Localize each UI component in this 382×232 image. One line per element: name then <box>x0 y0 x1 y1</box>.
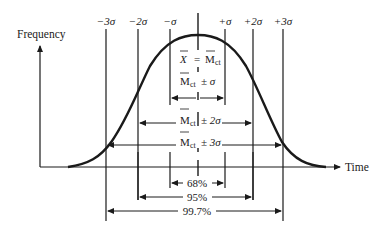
sigma-label-plus-1: +σ <box>219 15 232 27</box>
svg-text:ct: ct <box>190 80 197 89</box>
svg-text:ct: ct <box>215 58 222 67</box>
svg-text:± 2σ: ± 2σ <box>201 114 221 126</box>
sigma-label-minus-2: −2σ <box>129 15 148 27</box>
svg-text:± 3σ: ± 3σ <box>201 136 221 148</box>
sigma-label-minus-1: −σ <box>164 15 177 27</box>
pct-99-7: 99.7% <box>108 205 281 217</box>
sigma-label-plus-3: +3σ <box>274 15 293 27</box>
svg-text:99.7%: 99.7% <box>183 205 211 217</box>
svg-text:95%: 95% <box>187 191 207 203</box>
svg-text:68%: 68% <box>187 177 207 189</box>
svg-text:ct: ct <box>190 119 197 128</box>
svg-text:M: M <box>180 114 190 126</box>
svg-text:± σ: ± σ <box>201 75 216 87</box>
svg-text:M: M <box>180 75 190 87</box>
pct-95: 95% <box>140 191 251 203</box>
mean-label: X = M ct <box>179 51 222 67</box>
range-2-sigma: M ct ± 2σ <box>140 109 251 128</box>
normal-distribution-diagram: Frequency Time −3σ −2σ −σ +σ +2σ +3σ X = <box>0 0 382 232</box>
pct-68: 68% <box>172 177 223 189</box>
time-label: Time <box>345 161 369 173</box>
svg-text:M: M <box>205 53 215 65</box>
svg-text:=: = <box>194 53 200 65</box>
svg-text:X: X <box>179 53 188 65</box>
svg-text:M: M <box>180 136 190 148</box>
svg-text:ct: ct <box>190 141 197 150</box>
frequency-label: Frequency <box>17 28 66 41</box>
sigma-label-plus-2: +2σ <box>244 15 263 27</box>
range-3-sigma: M ct ± 3σ <box>108 132 281 150</box>
sigma-label-minus-3: −3σ <box>97 15 116 27</box>
